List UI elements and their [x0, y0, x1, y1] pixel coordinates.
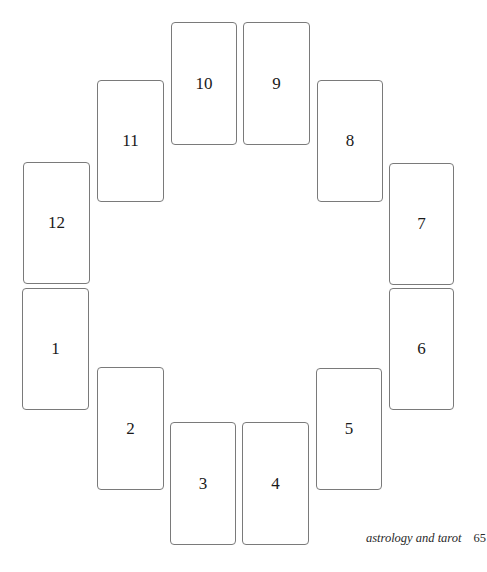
card-position-3: 3 — [170, 422, 236, 545]
card-number: 5 — [317, 419, 381, 439]
card-number: 1 — [23, 339, 88, 359]
card-number: 4 — [243, 474, 308, 494]
card-number: 3 — [171, 474, 235, 494]
card-number: 6 — [390, 339, 453, 359]
card-position-1: 1 — [22, 288, 89, 410]
running-title: astrology and tarot — [366, 531, 462, 545]
card-position-2: 2 — [97, 367, 164, 490]
card-position-6: 6 — [389, 288, 454, 410]
card-position-7: 7 — [389, 163, 454, 285]
card-number: 10 — [172, 74, 236, 94]
card-number: 2 — [98, 419, 163, 439]
card-position-5: 5 — [316, 368, 382, 490]
page-footer: astrology and tarot65 — [366, 531, 486, 546]
card-number: 11 — [98, 131, 163, 151]
card-position-4: 4 — [242, 422, 309, 545]
card-position-11: 11 — [97, 80, 164, 202]
card-number: 8 — [318, 131, 382, 151]
card-number: 12 — [24, 213, 89, 233]
card-number: 7 — [390, 214, 453, 234]
card-position-9: 9 — [243, 22, 310, 145]
card-position-12: 12 — [23, 162, 90, 284]
card-number: 9 — [244, 74, 309, 94]
page-number: 65 — [474, 531, 487, 545]
card-position-8: 8 — [317, 80, 383, 202]
card-position-10: 10 — [171, 22, 237, 145]
book-page: 1 2 3 4 5 6 7 8 9 10 11 12 astrology and… — [0, 0, 487, 572]
